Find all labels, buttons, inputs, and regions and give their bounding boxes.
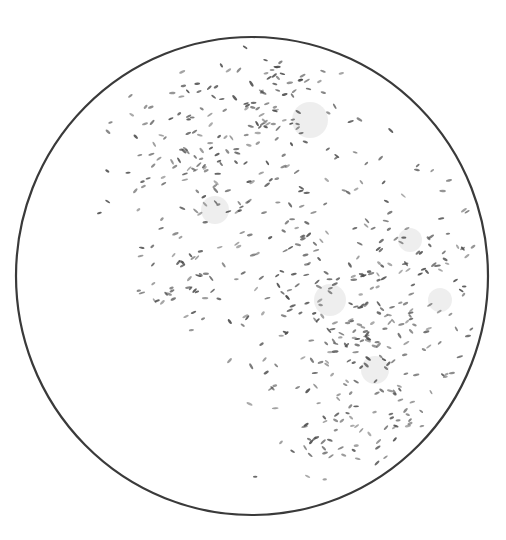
bacillus-cell	[145, 177, 151, 180]
bacillus-cell	[181, 178, 188, 181]
bacillus-cell	[413, 373, 420, 377]
bacillus-cell	[161, 181, 167, 186]
bacillus-cell	[195, 189, 200, 194]
bacillus-cell	[170, 297, 176, 302]
bacillus-cell	[217, 246, 223, 249]
bacillus-cell	[214, 152, 220, 157]
bacillus-cell	[227, 319, 233, 325]
bacillus-cell	[345, 379, 350, 384]
bacillus-cell	[224, 189, 231, 193]
bacillus-cell	[284, 220, 290, 226]
bacillus-cell	[302, 253, 309, 257]
bacillus-cell	[156, 156, 162, 161]
bacillus-cell	[336, 393, 341, 397]
bacillus-cell	[264, 102, 270, 106]
bacillus-cell	[179, 69, 186, 74]
bacillus-cell	[150, 163, 156, 168]
bacillus-cell	[352, 151, 357, 154]
bacillus-cell	[291, 272, 297, 276]
bacillus-cell	[169, 91, 176, 94]
bacillus-cell	[408, 418, 413, 423]
bacillus-cell	[97, 211, 102, 215]
bacillus-cell	[289, 142, 293, 147]
bacillus-cell	[322, 415, 327, 420]
bacillus-cell	[298, 311, 303, 315]
bacillus-cell	[258, 171, 264, 175]
bacillus-cell	[421, 348, 426, 352]
bacillus-cell	[469, 327, 474, 331]
bacillus-cell	[395, 419, 400, 422]
bacillus-cell	[410, 283, 415, 287]
bacillus-cell	[350, 278, 357, 281]
bacillus-cell	[201, 194, 207, 199]
bacillus-cell	[453, 278, 459, 283]
bacillus-cell	[439, 190, 446, 193]
bacillus-cell	[376, 301, 381, 307]
bacillus-cell	[261, 211, 267, 215]
bacillus-cell	[280, 290, 285, 295]
bacillus-cell	[239, 205, 244, 209]
bacillus-cell	[281, 229, 287, 234]
bacillus-cell	[208, 146, 213, 150]
bacillus-cell	[279, 440, 284, 445]
bacillus-cell	[338, 336, 343, 339]
bacillus-cell	[214, 173, 221, 175]
bacillus-cell	[286, 81, 293, 84]
bacillus-cell	[294, 227, 299, 230]
bacillus-cell	[226, 357, 232, 363]
bacillus-cell	[335, 277, 340, 281]
bacillus-cell	[356, 117, 363, 123]
bacillus-cell	[139, 246, 145, 249]
bacillus-cell	[264, 296, 271, 300]
bacillus-cell	[338, 331, 345, 336]
bacillus-cell	[169, 286, 174, 290]
bacillus-cell	[179, 206, 186, 210]
bacillus-cell	[203, 273, 209, 275]
bacillus-cell	[348, 415, 353, 420]
bacillus-cell	[303, 273, 309, 276]
bacillus-cell	[219, 98, 225, 100]
bacillus-cell	[172, 164, 178, 169]
bacillus-cell	[250, 253, 257, 257]
bacillus-cell	[246, 198, 252, 204]
bacillus-cell	[314, 279, 320, 285]
bacillus-cell	[193, 208, 199, 214]
bacillus-cell	[194, 82, 200, 85]
bacillus-cell	[355, 255, 360, 260]
bacillus-cell	[405, 413, 410, 417]
bacillus-cell	[159, 217, 164, 222]
bacillus-cell	[305, 474, 311, 478]
haze-blob	[398, 228, 422, 252]
bacillus-cell	[438, 268, 444, 272]
bacillus-cell	[266, 75, 272, 80]
bacillus-cell	[325, 147, 330, 151]
bacillus-cell	[286, 308, 293, 313]
bacillus-cell	[359, 179, 364, 184]
bacillus-cell	[189, 329, 194, 332]
bacillus-cell	[190, 117, 195, 119]
bacillus-cell	[274, 177, 279, 180]
bacillus-cell	[221, 262, 226, 268]
bacillus-cell	[295, 243, 302, 247]
bacillus-cell	[383, 199, 389, 203]
bacillus-cell	[274, 363, 279, 368]
bacillus-cell	[389, 416, 394, 420]
bacillus-cell	[234, 278, 239, 280]
bacillus-cell	[387, 262, 393, 267]
bacillus-cell	[142, 122, 149, 126]
bacillus-cell	[326, 278, 332, 280]
bacillus-cell	[290, 93, 295, 98]
bacillus-cell	[370, 226, 376, 230]
bacillus-cell	[364, 218, 370, 224]
bacillus-cell	[264, 182, 271, 188]
bacillus-cell	[199, 157, 204, 160]
bacillus-cell	[427, 243, 432, 248]
bacillus-cell	[387, 210, 394, 215]
bacillus-cell	[458, 288, 464, 293]
bacillus-cell	[196, 89, 202, 93]
bacillus-cell	[408, 317, 413, 321]
bacillus-cell	[258, 112, 265, 117]
bacillus-cell	[263, 72, 268, 75]
bacillus-cell	[306, 87, 312, 90]
bacillus-cell	[303, 445, 308, 451]
